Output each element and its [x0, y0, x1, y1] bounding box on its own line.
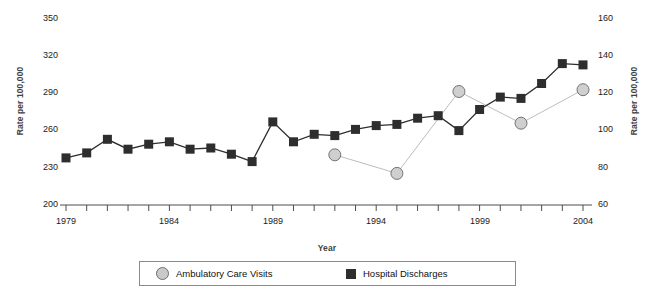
legend-item-ambulatory-care-visits: Ambulatory Care Visits [156, 267, 346, 280]
data-point-marker [413, 114, 422, 123]
data-point-marker [186, 145, 195, 154]
data-point-marker [329, 149, 341, 161]
data-point-marker [103, 135, 112, 144]
data-point-marker [454, 126, 463, 135]
data-point-marker [475, 105, 484, 114]
data-point-marker [537, 79, 546, 88]
data-point-marker [515, 117, 527, 129]
data-point-marker [577, 84, 589, 96]
data-point-marker [124, 145, 133, 154]
plot-area [0, 0, 654, 294]
chart-container: Rate per 100,000 Rate per 100,000 Year 3… [0, 0, 654, 294]
data-point-marker [144, 140, 153, 149]
legend-label-ambulatory: Ambulatory Care Visits [176, 268, 272, 279]
data-point-marker [62, 153, 71, 162]
circle-marker-icon [156, 267, 169, 280]
series-line [66, 64, 583, 162]
data-point-marker [579, 60, 588, 69]
data-point-marker [496, 93, 505, 102]
data-point-marker [453, 86, 465, 98]
data-point-marker [372, 121, 381, 130]
series-hospital-discharges [62, 59, 588, 166]
data-point-marker [310, 130, 319, 139]
square-marker-icon [346, 269, 356, 279]
data-point-marker [227, 150, 236, 159]
data-point-marker [82, 148, 91, 157]
data-point-marker [391, 167, 403, 179]
legend-item-hospital-discharges: Hospital Discharges [346, 268, 447, 279]
data-point-marker [558, 59, 567, 68]
data-point-marker [392, 120, 401, 129]
chart-legend: Ambulatory Care Visits Hospital Discharg… [139, 261, 516, 286]
data-point-marker [165, 137, 174, 146]
data-point-marker [434, 111, 443, 120]
data-point-marker [248, 157, 257, 166]
data-point-marker [517, 94, 526, 103]
legend-label-hospital: Hospital Discharges [363, 268, 447, 279]
data-point-marker [268, 117, 277, 126]
data-point-marker [351, 125, 360, 134]
x-axis-ticks [66, 205, 583, 211]
data-point-marker [289, 137, 298, 146]
data-point-marker [330, 131, 339, 140]
data-point-marker [206, 144, 215, 153]
